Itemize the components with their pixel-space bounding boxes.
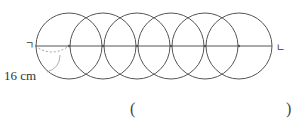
- center-point: [238, 45, 240, 47]
- point-label-right: ㄴ: [276, 39, 285, 54]
- radius-measure-label: 16 cm: [4, 68, 36, 84]
- answer-open-paren: (: [130, 100, 135, 118]
- center-point: [102, 45, 104, 47]
- circles-diagram: [0, 0, 295, 130]
- center-point: [136, 45, 138, 47]
- center-point: [204, 45, 206, 47]
- center-point: [170, 45, 172, 47]
- point-label-left: ㄱ: [25, 37, 34, 52]
- radius-dashed-arc: [35, 46, 69, 52]
- measure-leader-line: [47, 55, 60, 72]
- answer-close-paren: ): [286, 100, 291, 118]
